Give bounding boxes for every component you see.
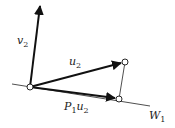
perpendicular-segment — [119, 62, 125, 99]
vector-p1u2-arrow — [30, 87, 115, 98]
p1u2-tip-point — [116, 96, 122, 102]
label-w1: W1 — [149, 109, 165, 124]
vector-v2-arrow — [30, 6, 40, 87]
projection-diagram: v2 u2 P1u2 W1 — [0, 0, 175, 128]
label-p1u2: P1u2 — [63, 100, 89, 115]
label-u2: u2 — [69, 55, 81, 70]
u2-tip-point — [122, 59, 128, 65]
origin-point — [27, 84, 33, 90]
label-v2: v2 — [17, 34, 28, 49]
